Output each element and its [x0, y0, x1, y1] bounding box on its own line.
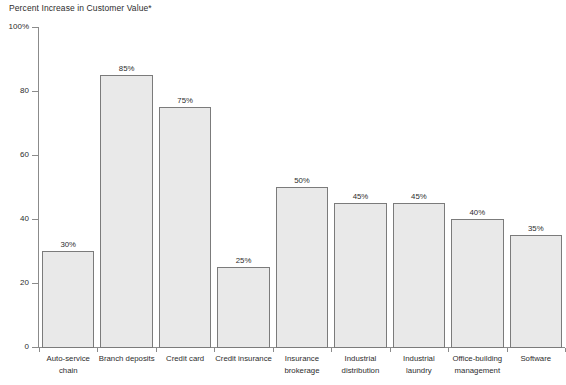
category-label-line: management [448, 365, 506, 377]
x-axis-category-label: Industriallaundry [390, 353, 448, 376]
y-axis-tick-label: 20 [0, 278, 29, 287]
y-axis-tick-label: 0 [0, 342, 29, 351]
bar[interactable] [159, 107, 212, 348]
x-axis-tick [214, 348, 215, 352]
y-axis-tick [32, 283, 39, 284]
bar-value-label: 40% [451, 208, 504, 217]
x-axis-category-label: Branch deposits [97, 353, 155, 365]
category-label-line: Insurance [273, 353, 331, 365]
category-label-line: Branch deposits [97, 353, 155, 365]
category-label-line: Office-building [448, 353, 506, 365]
y-axis-tick [32, 219, 39, 220]
x-axis-tick [156, 348, 157, 352]
bar[interactable] [276, 187, 329, 348]
bar-chart: Percent Increase in Customer Value* 0204… [0, 0, 566, 385]
y-axis-tick [32, 155, 39, 156]
bar[interactable] [510, 235, 563, 348]
category-label-line: brokerage [273, 365, 331, 377]
x-axis-tick [97, 348, 98, 352]
bar-value-label: 30% [42, 240, 95, 249]
x-axis-tick [39, 348, 40, 352]
bar[interactable] [393, 203, 446, 348]
bar-value-label: 45% [334, 192, 387, 201]
y-axis-tick-label: 80 [0, 86, 29, 95]
x-axis-category-label: Credit card [156, 353, 214, 365]
x-axis-category-label: Industrialdistribution [331, 353, 389, 376]
y-axis-tick-label: 100% [0, 22, 29, 31]
bar-value-label: 50% [276, 176, 329, 185]
category-label-line: laundry [390, 365, 448, 377]
category-label-line: Auto-service [39, 353, 97, 365]
bar-value-label: 35% [510, 224, 563, 233]
category-label-line: Credit insurance [214, 353, 272, 365]
bar[interactable] [217, 267, 270, 348]
bar-value-label: 85% [100, 64, 153, 73]
bar-value-label: 45% [393, 192, 446, 201]
x-axis-tick [448, 348, 449, 352]
category-label-line: Software [507, 353, 565, 365]
chart-title: Percent Increase in Customer Value* [9, 3, 152, 13]
x-axis-tick [390, 348, 391, 352]
bar[interactable] [42, 251, 95, 348]
category-label-line: Industrial [331, 353, 389, 365]
x-axis-category-label: Auto-servicechain [39, 353, 97, 376]
x-axis-tick [507, 348, 508, 352]
bar-value-label: 25% [217, 256, 270, 265]
bar[interactable] [451, 219, 504, 348]
y-axis-tick [32, 27, 39, 28]
y-axis-tick-label: 40 [0, 214, 29, 223]
bar-value-label: 75% [159, 96, 212, 105]
y-axis-line [38, 27, 39, 348]
x-axis-tick [331, 348, 332, 352]
x-axis-category-label: Insurancebrokerage [273, 353, 331, 376]
bar[interactable] [334, 203, 387, 348]
category-label-line: distribution [331, 365, 389, 377]
category-label-line: Credit card [156, 353, 214, 365]
x-axis-category-label: Office-buildingmanagement [448, 353, 506, 376]
bar[interactable] [100, 75, 153, 348]
x-axis-category-label: Software [507, 353, 565, 365]
category-label-line: chain [39, 365, 97, 377]
category-label-line: Industrial [390, 353, 448, 365]
x-axis-category-label: Credit insurance [214, 353, 272, 365]
y-axis-tick-label: 60 [0, 150, 29, 159]
y-axis-tick [32, 347, 39, 348]
y-axis-tick [32, 91, 39, 92]
x-axis-tick [273, 348, 274, 352]
